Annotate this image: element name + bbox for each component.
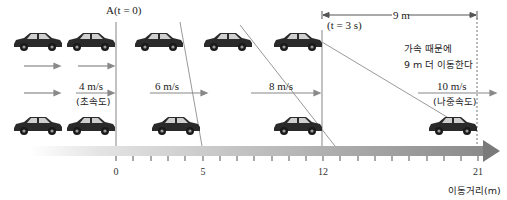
bottom-car-row — [14, 117, 477, 135]
distance-axis-arrow — [30, 140, 500, 162]
velocity-caption-final: (나중속도) — [433, 96, 476, 108]
acceleration-note-line2: 9 m 더 이동한다 — [404, 59, 473, 71]
axis-tick-label-5: 5 — [201, 166, 206, 177]
velocity-label-final: 10 m/s — [437, 80, 467, 92]
axis-ticks — [116, 156, 478, 161]
top-car-row — [14, 33, 322, 51]
end-time-label: (t = 3 s) — [327, 19, 362, 31]
acceleration-note-line1: 가속 때문에 — [404, 43, 452, 55]
start-time-label: A(t = 0) — [106, 4, 142, 16]
span-distance-label: 9 m — [393, 9, 410, 21]
axis-tick-label-12: 12 — [318, 166, 328, 177]
velocity-caption-initial: (초속도) — [76, 96, 110, 108]
axis-tick-label-21: 21 — [473, 166, 483, 177]
velocity-label-initial: 4 m/s — [79, 80, 103, 92]
axis-tick-label-0: 0 — [114, 166, 119, 177]
velocity-label-3: 8 m/s — [269, 80, 293, 92]
velocity-label-2: 6 m/s — [155, 80, 179, 92]
axis-title: 이동거리(m) — [448, 185, 501, 197]
